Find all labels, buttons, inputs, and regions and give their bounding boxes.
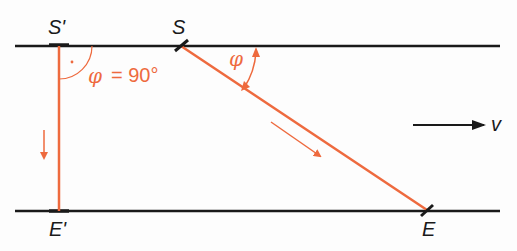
label-e-prime: E' bbox=[49, 218, 67, 240]
right-angle-dot bbox=[71, 61, 74, 64]
label-s: S bbox=[172, 16, 186, 38]
label-phi-equation-value: = 90° bbox=[111, 64, 158, 86]
diagonal-direction-arrow bbox=[271, 122, 320, 156]
label-s-prime: S' bbox=[48, 16, 66, 38]
label-v: v bbox=[491, 113, 502, 135]
phi-angle-arc bbox=[244, 52, 256, 88]
label-phi-equation-symbol: φ bbox=[88, 64, 102, 88]
label-e: E bbox=[422, 218, 436, 240]
river-crossing-diagram: S' S E' E v φ φ = 90° bbox=[0, 0, 517, 251]
diagonal-path bbox=[181, 46, 427, 210]
diagram-canvas: S' S E' E v φ φ = 90° bbox=[0, 0, 517, 251]
phi-arc-arrowhead-top bbox=[252, 47, 260, 57]
label-phi-angle: φ bbox=[229, 47, 243, 71]
